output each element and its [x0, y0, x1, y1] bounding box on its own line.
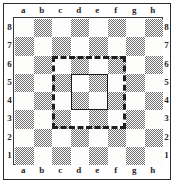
board-square-a2[interactable] — [15, 129, 34, 147]
board-square-b1[interactable] — [34, 147, 53, 165]
file-label-d-top: d — [70, 4, 89, 17]
board-square-a7[interactable] — [15, 37, 34, 55]
board-square-g4[interactable] — [126, 92, 145, 110]
board-square-b2[interactable] — [34, 129, 53, 147]
board-square-f1[interactable] — [108, 147, 127, 165]
file-label-e-top: e — [88, 4, 107, 17]
board-square-f6[interactable] — [108, 56, 127, 74]
board-square-b5[interactable] — [34, 74, 53, 92]
file-label-h-bottom: h — [144, 164, 163, 177]
board-square-h7[interactable] — [145, 37, 164, 55]
file-label-f-top: f — [107, 4, 126, 17]
board-square-f3[interactable] — [108, 110, 127, 128]
board-square-e3[interactable] — [89, 110, 108, 128]
file-label-b-top: b — [33, 4, 52, 17]
board-square-e2[interactable] — [89, 129, 108, 147]
board-square-d6[interactable] — [71, 56, 90, 74]
board-square-d4[interactable] — [71, 92, 90, 110]
board-square-d1[interactable] — [71, 147, 90, 165]
board-square-d5[interactable] — [71, 74, 90, 92]
board-square-a3[interactable] — [15, 110, 34, 128]
board-square-e8[interactable] — [89, 19, 108, 37]
file-label-f-bottom: f — [107, 164, 126, 177]
board-square-c4[interactable] — [52, 92, 71, 110]
file-label-c-bottom: c — [51, 164, 70, 177]
board-square-c3[interactable] — [52, 110, 71, 128]
board-square-g2[interactable] — [126, 129, 145, 147]
board-square-e5[interactable] — [89, 74, 108, 92]
board-square-c7[interactable] — [52, 37, 71, 55]
board-square-e6[interactable] — [89, 56, 108, 74]
file-label-b-bottom: b — [33, 164, 52, 177]
board-grid — [15, 19, 163, 165]
board-square-e4[interactable] — [89, 92, 108, 110]
board-square-h3[interactable] — [145, 110, 164, 128]
file-label-a-bottom: a — [14, 164, 33, 177]
board-square-c8[interactable] — [52, 19, 71, 37]
file-label-a-top: a — [14, 4, 33, 17]
file-labels-top: abcdefgh — [14, 4, 162, 17]
file-label-d-bottom: d — [70, 164, 89, 177]
board-square-h6[interactable] — [145, 56, 164, 74]
board-square-e7[interactable] — [89, 37, 108, 55]
board-square-a6[interactable] — [15, 56, 34, 74]
board-square-c6[interactable] — [52, 56, 71, 74]
board-square-f8[interactable] — [108, 19, 127, 37]
board-square-c5[interactable] — [52, 74, 71, 92]
file-labels-bottom: abcdefgh — [14, 164, 162, 177]
board-square-d7[interactable] — [71, 37, 90, 55]
file-label-e-bottom: e — [88, 164, 107, 177]
board-square-h4[interactable] — [145, 92, 164, 110]
board-square-f7[interactable] — [108, 37, 127, 55]
board-square-e1[interactable] — [89, 147, 108, 165]
board-square-c2[interactable] — [52, 129, 71, 147]
board-square-a4[interactable] — [15, 92, 34, 110]
board-square-g3[interactable] — [126, 110, 145, 128]
board-square-a5[interactable] — [15, 74, 34, 92]
file-label-g-top: g — [125, 4, 144, 17]
board-square-f5[interactable] — [108, 74, 127, 92]
board-square-h1[interactable] — [145, 147, 164, 165]
board-square-b8[interactable] — [34, 19, 53, 37]
board-square-c1[interactable] — [52, 147, 71, 165]
file-label-c-top: c — [51, 4, 70, 17]
board-square-h8[interactable] — [145, 19, 164, 37]
board-square-g5[interactable] — [126, 74, 145, 92]
board-square-h5[interactable] — [145, 74, 164, 92]
board-square-g6[interactable] — [126, 56, 145, 74]
file-label-h-top: h — [144, 4, 163, 17]
board-square-g8[interactable] — [126, 19, 145, 37]
board-square-g1[interactable] — [126, 147, 145, 165]
file-label-g-bottom: g — [125, 164, 144, 177]
board-square-a8[interactable] — [15, 19, 34, 37]
board-square-h2[interactable] — [145, 129, 164, 147]
board-square-b7[interactable] — [34, 37, 53, 55]
board-square-b3[interactable] — [34, 110, 53, 128]
board-square-b4[interactable] — [34, 92, 53, 110]
board-square-f2[interactable] — [108, 129, 127, 147]
board-square-a1[interactable] — [15, 147, 34, 165]
board-square-g7[interactable] — [126, 37, 145, 55]
chessboard-diagram: abcdefgh abcdefgh 87654321 87654321 — [0, 0, 176, 190]
board-square-d3[interactable] — [71, 110, 90, 128]
board-square-f4[interactable] — [108, 92, 127, 110]
board-square-d2[interactable] — [71, 129, 90, 147]
board-square-d8[interactable] — [71, 19, 90, 37]
board-frame — [13, 17, 163, 165]
board-square-b6[interactable] — [34, 56, 53, 74]
